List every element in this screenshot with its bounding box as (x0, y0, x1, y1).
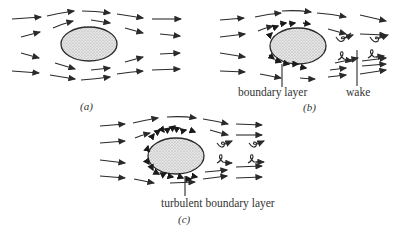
label-wake: wake (346, 86, 370, 98)
caption-a: (a) (80, 100, 93, 113)
panel-a: (a) (12, 11, 181, 113)
ellipse-body-a (61, 27, 117, 61)
label-turbulent-boundary-layer: turbulent boundary layer (161, 197, 275, 210)
ellipse-body-c (148, 138, 204, 174)
wake-vortices-c (217, 141, 264, 163)
label-boundary-layer: boundary layer (238, 86, 307, 99)
wake-vortices-b (336, 33, 388, 61)
caption-c: (c) (178, 213, 191, 226)
panel-c: turbulent boundary layer (c) (100, 117, 275, 226)
caption-b: (b) (303, 101, 316, 114)
ellipse-body-b (270, 28, 326, 64)
flow-diagram: (a) (0, 0, 398, 233)
panel-b: boundary layer wake (b) (220, 11, 388, 114)
